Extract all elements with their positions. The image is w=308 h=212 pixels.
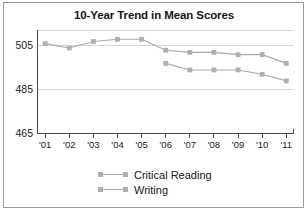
- x-tick-label: '07: [177, 139, 203, 150]
- x-tick-label: '10: [249, 139, 275, 150]
- y-tick-label: 465: [1, 127, 33, 139]
- y-tick-label: 505: [1, 39, 33, 51]
- x-tick-label: '09: [225, 139, 251, 150]
- legend-swatch-icon: [98, 170, 128, 180]
- x-tick-label: '11: [273, 139, 299, 150]
- x-tick-label: '08: [201, 139, 227, 150]
- legend-item-critical-reading: Critical Reading: [98, 167, 212, 182]
- x-tick-label: '02: [56, 139, 82, 150]
- legend-label: Critical Reading: [134, 169, 212, 181]
- x-tick-label: '01: [32, 139, 58, 150]
- x-tick-label: '04: [105, 139, 131, 150]
- x-tick-label: '03: [80, 139, 106, 150]
- chart-figure: 10-Year Trend in Mean Scores 465485505 '…: [0, 0, 308, 212]
- x-tick-label: '05: [129, 139, 155, 150]
- legend-item-writing: Writing: [98, 182, 212, 197]
- series-markers: [43, 37, 289, 83]
- chart-legend: Critical Reading Writing: [98, 167, 212, 197]
- legend-swatch-icon: [98, 185, 128, 195]
- legend-label: Writing: [134, 184, 168, 196]
- y-tick-label: 485: [1, 83, 33, 95]
- x-tick-label: '06: [153, 139, 179, 150]
